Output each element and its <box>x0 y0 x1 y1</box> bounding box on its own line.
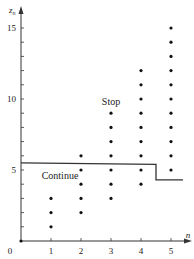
x-tick-label: 2 <box>79 246 84 256</box>
data-point <box>139 97 142 100</box>
y-tick-label: 10 <box>7 94 17 104</box>
data-point <box>169 140 172 143</box>
data-point <box>109 168 112 171</box>
data-point <box>169 168 172 171</box>
data-point <box>109 154 112 157</box>
data-point <box>109 112 112 115</box>
data-point <box>169 55 172 58</box>
data-point <box>169 112 172 115</box>
data-point <box>169 126 172 129</box>
data-point <box>79 211 82 214</box>
stop-label: Stop <box>102 96 120 107</box>
data-point <box>79 197 82 200</box>
data-point <box>139 140 142 143</box>
data-point <box>169 41 172 44</box>
data-point <box>49 225 52 228</box>
data-point <box>139 168 142 171</box>
x-tick-label: 5 <box>169 246 174 256</box>
data-point <box>139 69 142 72</box>
data-point <box>169 83 172 86</box>
data-point <box>139 112 142 115</box>
x-axis-label: n <box>186 230 191 240</box>
x-tick-label: 3 <box>109 246 114 256</box>
chart: 12345510150nzn StopContinue <box>0 0 194 259</box>
data-points <box>19 26 172 242</box>
y-tick-label: 15 <box>7 23 17 33</box>
data-point <box>139 183 142 186</box>
data-point <box>109 140 112 143</box>
axes: 12345510150nzn <box>7 5 192 256</box>
data-point <box>109 183 112 186</box>
continue-label: Continue <box>42 170 79 181</box>
data-point <box>169 26 172 29</box>
y-tick-label: 5 <box>12 165 17 175</box>
data-point <box>49 197 52 200</box>
data-point <box>139 83 142 86</box>
data-point <box>109 126 112 129</box>
x-tick-label: 4 <box>139 246 144 256</box>
y-axis-label-subscript: n <box>13 10 16 16</box>
data-point <box>79 183 82 186</box>
origin-label: 0 <box>8 246 13 256</box>
data-point <box>49 211 52 214</box>
y-axis-arrow-icon <box>19 6 24 14</box>
data-point <box>79 154 82 157</box>
data-point <box>169 69 172 72</box>
labels: StopContinue <box>42 96 121 181</box>
data-point <box>79 168 82 171</box>
data-point <box>19 239 22 242</box>
data-point <box>139 154 142 157</box>
data-point <box>109 197 112 200</box>
y-axis-label: zn <box>8 5 16 16</box>
data-point <box>169 154 172 157</box>
x-tick-label: 1 <box>49 246 54 256</box>
data-point <box>139 126 142 129</box>
data-point <box>169 97 172 100</box>
